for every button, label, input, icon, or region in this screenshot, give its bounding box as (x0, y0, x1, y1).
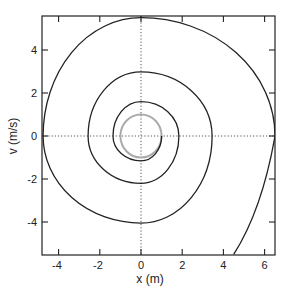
x-tick-label: 4 (220, 259, 226, 271)
y-tick-label: 4 (31, 44, 37, 56)
y-ticks (42, 50, 275, 222)
zero-lines (42, 16, 275, 255)
y-tick-labels: 4 2 0 -2 -4 (27, 44, 37, 228)
y-tick-label: -2 (27, 173, 37, 185)
y-tick-label: 2 (31, 87, 37, 99)
y-tick-label: -4 (27, 216, 37, 228)
x-axis-label: x (m) (136, 272, 163, 286)
x-tick-label: 2 (179, 259, 185, 271)
x-tick-labels: -4 -2 0 2 4 6 (52, 259, 268, 271)
y-tick-label: 0 (31, 130, 37, 142)
x-tick-label: 0 (138, 259, 144, 271)
x-tick-label: -4 (52, 259, 62, 271)
x-tick-label: -2 (93, 259, 103, 271)
plot-frame (42, 16, 275, 255)
y-axis-label: v (m/s) (6, 118, 20, 155)
phase-plot: -4 -2 0 2 4 6 4 2 0 -2 -4 x (m) v (m/s) (0, 0, 288, 295)
x-tick-label: 6 (262, 259, 268, 271)
